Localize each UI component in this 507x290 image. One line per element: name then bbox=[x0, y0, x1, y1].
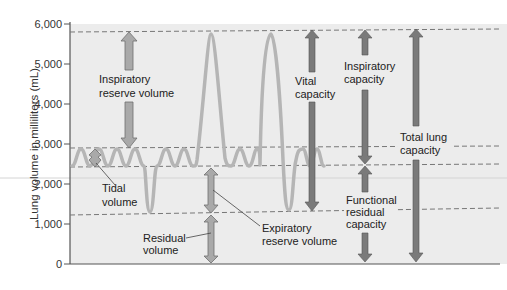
vital-capacity-label: Vital capacity bbox=[293, 73, 336, 101]
svg-text:Inspiratory: Inspiratory bbox=[99, 73, 151, 85]
svg-text:Functional: Functional bbox=[346, 194, 397, 206]
svg-text:residual: residual bbox=[346, 206, 385, 218]
svg-text:Inspiratory: Inspiratory bbox=[344, 60, 396, 72]
frc-label: Functional residual capacity bbox=[344, 193, 397, 231]
inspiratory-capacity-label: Inspiratory capacity bbox=[343, 57, 396, 87]
y-tick-2000: 2,000 bbox=[34, 178, 62, 190]
y-tick-3000: 3,000 bbox=[34, 138, 62, 150]
svg-text:reserve volume: reserve volume bbox=[99, 87, 174, 99]
svg-text:capacity: capacity bbox=[344, 73, 385, 85]
svg-text:volume: volume bbox=[102, 196, 137, 208]
svg-text:capacity: capacity bbox=[400, 144, 441, 156]
svg-text:volume: volume bbox=[143, 244, 178, 256]
y-ticks: 0 1,000 2,000 3,000 4,000 5,000 6,000 bbox=[34, 18, 70, 270]
y-tick-1000: 1,000 bbox=[34, 218, 62, 230]
svg-text:Total lung: Total lung bbox=[400, 131, 447, 143]
tlc-label: Total lung capacity bbox=[398, 128, 454, 158]
svg-text:Vital: Vital bbox=[295, 75, 316, 87]
irv-label: Inspiratory reserve volume bbox=[98, 71, 174, 101]
svg-text:Residual: Residual bbox=[143, 232, 186, 244]
y-tick-6000: 6,000 bbox=[34, 18, 62, 30]
lung-volumes-diagram: Lung volume in milliliters (mL) 0 1,000 … bbox=[0, 0, 507, 290]
svg-text:reserve volume: reserve volume bbox=[262, 235, 337, 247]
svg-text:Tidal: Tidal bbox=[102, 182, 125, 194]
y-tick-5000: 5,000 bbox=[34, 58, 62, 70]
svg-text:Expiratory: Expiratory bbox=[262, 222, 312, 234]
y-tick-0: 0 bbox=[56, 258, 62, 270]
svg-text:capacity: capacity bbox=[295, 88, 336, 100]
y-tick-4000: 4,000 bbox=[34, 98, 62, 110]
svg-text:capacity: capacity bbox=[346, 218, 387, 230]
